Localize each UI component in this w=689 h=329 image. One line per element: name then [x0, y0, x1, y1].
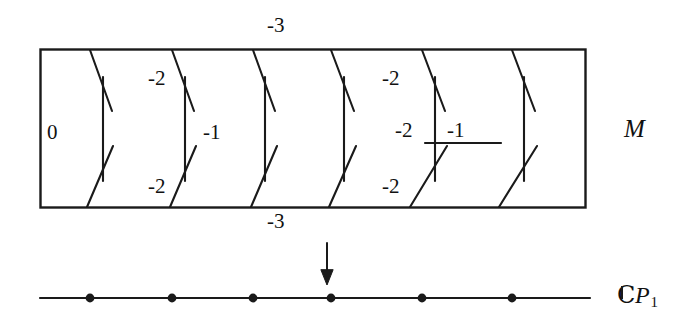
base-point: [168, 294, 177, 303]
label-top-minus-three: -3: [267, 15, 285, 36]
label-fiber1-mid-minus-one: -1: [203, 122, 221, 143]
base-point: [418, 294, 427, 303]
label-fiber1-lower-minus-two: -2: [148, 176, 166, 197]
label-total-space-M: M: [624, 116, 645, 141]
projection-arrow: [321, 243, 333, 285]
base-point: [327, 294, 336, 303]
figure-root: -3 -3 0 -2 -2 -1 -2 -2 -2 -1 M CP1: [0, 0, 689, 329]
blackboard-c-stroke: [621, 286, 623, 299]
label-fiber5-upper-minus-two: -2: [382, 68, 400, 89]
p-glyph: P: [635, 282, 650, 308]
label-horizontal-minus-one: -1: [447, 120, 465, 141]
label-zero-section: 0: [47, 122, 58, 143]
label-fiber5-lower-minus-two: -2: [382, 176, 400, 197]
base-point: [86, 294, 95, 303]
label-fiber5-mid-minus-two: -2: [395, 120, 413, 141]
projection-arrow-head: [321, 270, 333, 285]
subscript-one: 1: [650, 294, 659, 310]
base-point: [508, 294, 517, 303]
base-point: [249, 294, 258, 303]
fibration-diagram: [0, 0, 689, 329]
label-base-space-cp1: CP1: [617, 283, 658, 310]
label-bottom-minus-three: -3: [267, 211, 285, 232]
total-space-rectangle: [41, 50, 586, 208]
blackboard-c-glyph: C: [617, 281, 635, 309]
label-fiber1-upper-minus-two: -2: [148, 68, 166, 89]
base-space-line: [40, 294, 590, 303]
